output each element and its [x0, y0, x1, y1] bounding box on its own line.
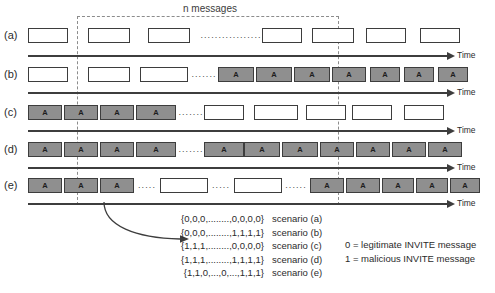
message-box-d-6-mal: A	[244, 142, 280, 157]
ellipsis-e-7: ......	[284, 178, 308, 193]
time-axis-label-b: Time	[457, 87, 476, 97]
scenario-name-3: scenario (d)	[272, 254, 322, 265]
message-box-a-2-legit	[148, 28, 190, 43]
message-box-d-0-mal: A	[28, 142, 62, 157]
message-box-c-3-mal: A	[136, 105, 176, 120]
figure-canvas: n messages (a).................Time(b)..…	[0, 0, 495, 293]
message-box-a-1-legit	[88, 28, 130, 43]
message-box-c-5-legit	[204, 105, 244, 120]
ellipsis-e-3: .....	[136, 178, 158, 193]
row-label-d: (d)	[4, 143, 28, 155]
time-axis-d	[28, 167, 447, 169]
message-box-c-7-legit	[306, 105, 346, 120]
message-box-b-1-legit	[88, 67, 130, 82]
message-box-a-6-legit	[366, 28, 406, 43]
message-box-a-0-legit	[28, 28, 68, 43]
message-box-b-10-mal: A	[438, 67, 468, 82]
scenario-vector-0: {0,0,0,........,0,0,0,0}	[159, 213, 264, 224]
time-axis-label-d: Time	[457, 162, 476, 172]
message-box-e-9-mal: A	[346, 178, 380, 193]
message-box-a-5-legit	[312, 28, 354, 43]
ellipsis-a-3: .................	[200, 28, 262, 43]
message-key-line-0: 0 = legitimate INVITE message	[345, 239, 476, 250]
time-axis-arrow-c	[447, 127, 455, 135]
message-box-e-6-legit	[234, 178, 282, 193]
message-key-line-1: 1 = malicious INVITE message	[345, 253, 475, 264]
message-box-d-8-mal: A	[320, 142, 354, 157]
message-box-d-5-mal: A	[204, 142, 244, 157]
scenario-name-1: scenario (b)	[272, 227, 322, 238]
message-box-d-3-mal: A	[136, 142, 176, 157]
message-box-c-8-legit	[352, 105, 392, 120]
scenario-name-4: scenario (e)	[272, 267, 322, 278]
time-axis-label-e: Time	[457, 198, 476, 208]
message-box-c-1-mal: A	[64, 105, 98, 120]
message-box-b-6-mal: A	[294, 67, 330, 82]
message-box-b-9-mal: A	[404, 67, 434, 82]
message-box-d-7-mal: A	[282, 142, 318, 157]
scenario-vector-2: {1,1,1,........,0,0,0,0}	[159, 240, 264, 251]
ellipsis-c-4: .......	[178, 105, 204, 120]
time-axis-arrow-e	[447, 200, 455, 208]
message-box-c-0-mal: A	[28, 105, 62, 120]
time-axis-c	[28, 130, 447, 132]
message-box-d-10-mal: A	[392, 142, 426, 157]
message-box-b-8-mal: A	[370, 67, 400, 82]
message-box-b-5-mal: A	[256, 67, 292, 82]
scenario-name-2: scenario (c)	[272, 240, 322, 251]
message-box-e-2-mal: A	[100, 178, 134, 193]
message-box-e-12-mal: A	[450, 178, 480, 193]
row-label-a: (a)	[4, 29, 28, 41]
time-axis-label-c: Time	[457, 125, 476, 135]
time-axis-b	[28, 92, 447, 94]
message-box-e-8-mal: A	[310, 178, 344, 193]
time-axis-a	[28, 55, 447, 57]
message-box-b-2-legit	[140, 67, 188, 82]
message-box-e-4-legit	[160, 178, 208, 193]
message-box-c-9-legit	[404, 105, 444, 120]
ellipsis-b-3: .......	[190, 67, 218, 82]
row-label-c: (c)	[4, 106, 28, 118]
message-box-c-2-mal: A	[100, 105, 134, 120]
ellipsis-d-4: .......	[178, 142, 204, 157]
time-axis-label-a: Time	[457, 50, 476, 60]
time-axis-arrow-a	[447, 52, 455, 60]
message-box-b-0-legit	[28, 67, 68, 82]
message-box-e-1-mal: A	[64, 178, 98, 193]
ellipsis-e-5: .....	[210, 178, 232, 193]
time-axis-arrow-b	[447, 89, 455, 97]
message-box-d-2-mal: A	[100, 142, 134, 157]
message-box-d-11-mal: A	[428, 142, 462, 157]
message-box-d-1-mal: A	[64, 142, 98, 157]
n-messages-label: n messages	[150, 3, 270, 14]
time-axis-arrow-d	[447, 164, 455, 172]
scenario-vector-1: {0,0,0,........,1,1,1,1}	[159, 227, 264, 238]
row-label-b: (b)	[4, 68, 28, 80]
message-box-e-11-mal: A	[416, 178, 448, 193]
row-label-e: (e)	[4, 179, 28, 191]
message-box-d-9-mal: A	[356, 142, 390, 157]
scenario-vector-4: {1,1,0,...,0,...,1,1,1}	[159, 267, 264, 278]
message-box-a-7-legit	[420, 28, 460, 43]
scenario-vector-3: {1,1,1,........,1,1,1,1}	[159, 254, 264, 265]
message-box-b-7-mal: A	[332, 67, 366, 82]
scenario-name-0: scenario (a)	[272, 213, 322, 224]
time-axis-e	[28, 203, 447, 205]
message-box-c-6-legit	[254, 105, 298, 120]
message-box-e-0-mal: A	[28, 178, 62, 193]
message-box-a-4-legit	[262, 28, 302, 43]
message-box-e-10-mal: A	[382, 178, 414, 193]
message-box-b-4-mal: A	[218, 67, 254, 82]
